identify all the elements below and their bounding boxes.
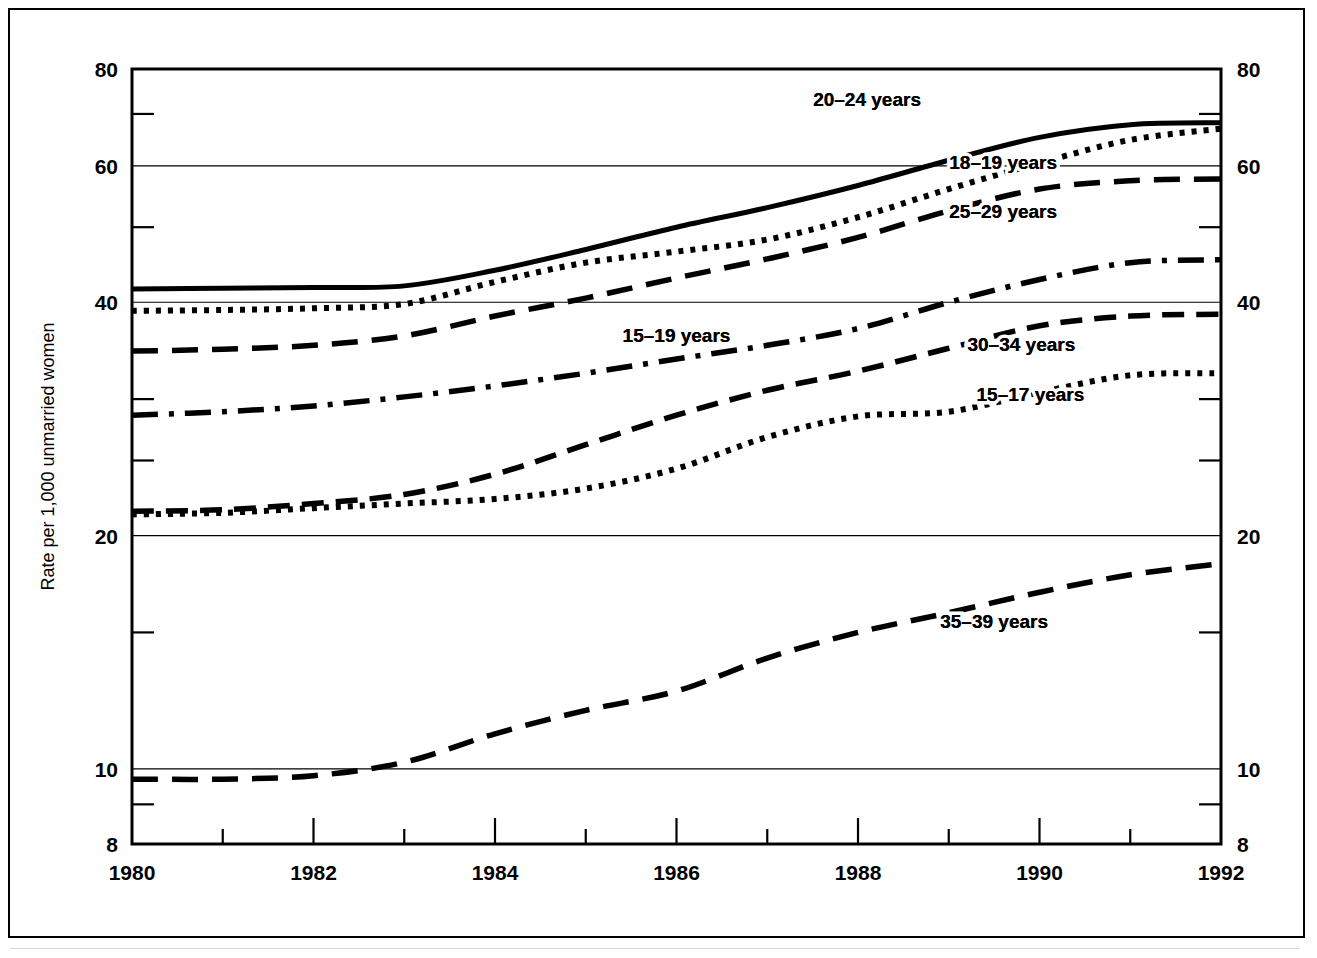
y-axis-label-left-20: 20 bbox=[95, 525, 118, 548]
y-axis-label-left-60: 60 bbox=[95, 155, 118, 178]
y-axis-label-left-10: 10 bbox=[95, 758, 118, 781]
x-axis-label-1992: 1992 bbox=[1198, 861, 1245, 884]
y-axis-label-right-8: 8 bbox=[1237, 833, 1249, 856]
series-annotation-2: 25–29 years bbox=[949, 201, 1057, 222]
y-axis-label-right-20: 20 bbox=[1237, 525, 1260, 548]
series-line-35-39 years bbox=[132, 564, 1221, 780]
y-axis-label-right-40: 40 bbox=[1237, 291, 1260, 314]
x-axis-label-1980: 1980 bbox=[109, 861, 156, 884]
y-axis-label-left-80: 80 bbox=[95, 58, 118, 81]
y-axis-title: Rate per 1,000 unmarried women bbox=[38, 322, 58, 590]
y-axis-label-right-80: 80 bbox=[1237, 58, 1260, 81]
x-axis-label-1984: 1984 bbox=[472, 861, 519, 884]
series-annotation-0: 20–24 years bbox=[813, 89, 921, 110]
figure-frame: 8080606040402020101088198019821984198619… bbox=[8, 8, 1305, 938]
scan-artifact bbox=[10, 948, 1300, 949]
x-axis-label-1988: 1988 bbox=[835, 861, 882, 884]
series-annotation-1: 18–19 years bbox=[949, 152, 1057, 173]
x-axis-label-1990: 1990 bbox=[1016, 861, 1063, 884]
series-annotation-6: 35–39 years bbox=[940, 611, 1048, 632]
chart-svg: 8080606040402020101088198019821984198619… bbox=[10, 10, 1307, 940]
x-axis-label-1982: 1982 bbox=[290, 861, 337, 884]
y-axis-label-right-60: 60 bbox=[1237, 155, 1260, 178]
line-chart: 8080606040402020101088198019821984198619… bbox=[10, 10, 1307, 940]
x-axis-label-1986: 1986 bbox=[653, 861, 700, 884]
series-annotation-4: 30–34 years bbox=[967, 334, 1075, 355]
y-axis-label-right-10: 10 bbox=[1237, 758, 1260, 781]
series-annotation-5: 15–17 years bbox=[977, 384, 1085, 405]
series-annotation-3: 15–19 years bbox=[623, 325, 731, 346]
series-line-20-24 years bbox=[132, 123, 1221, 289]
y-axis-label-left-8: 8 bbox=[106, 833, 118, 856]
y-axis-label-left-40: 40 bbox=[95, 291, 118, 314]
series-line-18-19 years bbox=[132, 129, 1221, 311]
